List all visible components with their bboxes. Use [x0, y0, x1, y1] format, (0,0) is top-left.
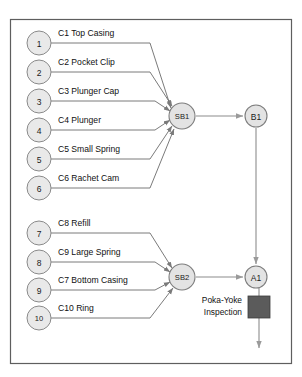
- part-node-8[interactable]: 8 C9 Large Spring: [27, 247, 121, 274]
- part-number-10: 10: [35, 314, 43, 323]
- inspection-label-line2: Inspection: [204, 307, 243, 317]
- assembly-node-b1[interactable]: B1: [245, 105, 267, 127]
- connector-part-3: [51, 101, 170, 111]
- assembly-node-a1[interactable]: A1: [245, 266, 267, 288]
- part-label-4: C4 Plunger: [58, 115, 101, 125]
- part-nodes-bottom: 7 C8 Refill 8 C9 Large Spring 9 C7 Botto…: [27, 218, 128, 330]
- assembly-label-b1: B1: [251, 112, 262, 122]
- part-number-8: 8: [37, 258, 42, 268]
- part-node-7[interactable]: 7 C8 Refill: [27, 218, 91, 245]
- subassembly-label-sb1: SB1: [175, 112, 189, 121]
- assembly-label-a1: A1: [251, 273, 262, 283]
- part-node-2[interactable]: 2 C2 Pocket Clip: [27, 57, 115, 84]
- part-number-7: 7: [37, 229, 42, 239]
- part-number-9: 9: [37, 286, 42, 296]
- part-label-5: C5 Small Spring: [58, 144, 120, 154]
- part-number-3: 3: [37, 97, 42, 107]
- part-node-3[interactable]: 3 C3 Plunger Cap: [27, 86, 119, 113]
- part-node-4[interactable]: 4 C4 Plunger: [27, 115, 101, 142]
- part-label-2: C2 Pocket Clip: [58, 57, 115, 67]
- part-node-10[interactable]: 10 C10 Ring: [27, 303, 94, 330]
- part-number-1: 1: [37, 39, 42, 49]
- inspection-label-line1: Poka-Yoke: [202, 295, 243, 305]
- part-number-4: 4: [37, 126, 42, 136]
- part-label-7: C8 Refill: [58, 218, 91, 228]
- connector-part-5: [51, 126, 172, 159]
- part-node-1[interactable]: 1 C1 Top Casing: [27, 28, 114, 55]
- subassembly-label-sb2: SB2: [175, 273, 189, 282]
- subassembly-node-sb1[interactable]: SB1: [169, 103, 195, 129]
- part-label-8: C9 Large Spring: [58, 247, 121, 257]
- assembly-diagram: 1 C1 Top Casing 2 C2 Pocket Clip 3 C3 Pl…: [0, 0, 302, 377]
- part-label-10: C10 Ring: [58, 303, 94, 313]
- part-node-6[interactable]: 6 C6 Rachet Cam: [27, 173, 119, 200]
- connector-part-8: [51, 262, 170, 272]
- part-label-6: C6 Rachet Cam: [58, 173, 119, 183]
- inspection-box[interactable]: [248, 296, 270, 318]
- part-node-9[interactable]: 9 C7 Bottom Casing: [27, 275, 128, 302]
- part-label-1: C1 Top Casing: [58, 28, 114, 38]
- part-number-2: 2: [37, 68, 42, 78]
- subassembly-node-sb2[interactable]: SB2: [169, 264, 195, 290]
- part-label-9: C7 Bottom Casing: [58, 275, 128, 285]
- part-nodes-top: 1 C1 Top Casing 2 C2 Pocket Clip 3 C3 Pl…: [27, 28, 120, 200]
- assembly-diagram-canvas: 1 C1 Top Casing 2 C2 Pocket Clip 3 C3 Pl…: [0, 0, 302, 377]
- part-node-5[interactable]: 5 C5 Small Spring: [27, 144, 120, 171]
- part-number-6: 6: [37, 184, 42, 194]
- part-label-3: C3 Plunger Cap: [58, 86, 119, 96]
- assembly-nodes: SB1 B1 SB2 A1: [169, 103, 267, 290]
- connector-part-1: [51, 43, 171, 108]
- part-number-5: 5: [37, 155, 42, 165]
- poka-yoke-inspection[interactable]: Poka-Yoke Inspection: [202, 295, 270, 318]
